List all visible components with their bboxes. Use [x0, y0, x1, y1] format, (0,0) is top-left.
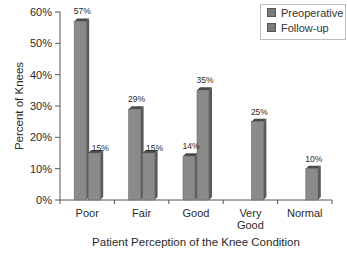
legend-item-follow-up: Follow-up — [261, 20, 345, 35]
x-tick-label: Poor — [76, 207, 100, 219]
bar-value-label: 25% — [251, 107, 268, 117]
bar — [251, 122, 263, 200]
bar — [74, 21, 86, 200]
bar-side — [318, 166, 321, 200]
x-tick-label: Good — [183, 207, 210, 219]
bar-side — [263, 119, 266, 200]
bar — [306, 169, 318, 200]
bar-value-label: 14% — [182, 141, 199, 151]
bar-value-label: 15% — [92, 143, 109, 153]
bar-value-label: 35% — [196, 75, 213, 85]
bar — [129, 109, 141, 200]
legend-item-preoperative: Preoperative — [261, 5, 345, 20]
x-tick-label: Good — [237, 219, 264, 231]
bar — [143, 153, 155, 200]
y-tick-label: 10% — [30, 163, 52, 175]
x-tick-label: Fair — [132, 207, 151, 219]
bar-value-label: 15% — [146, 143, 163, 153]
legend-swatch-icon — [267, 23, 276, 32]
y-tick-label: 20% — [30, 131, 52, 143]
bar-side — [100, 150, 103, 200]
y-tick-label: 60% — [30, 6, 52, 18]
bar — [183, 156, 195, 200]
y-tick-label: 50% — [30, 37, 52, 49]
x-tick-label: Normal — [287, 207, 322, 219]
y-tick-label: 40% — [30, 69, 52, 81]
x-tick-label: Very — [239, 207, 262, 219]
legend: Preoperative Follow-up — [260, 4, 346, 40]
y-tick-label: 30% — [30, 100, 52, 112]
bar-value-label: 57% — [74, 6, 91, 16]
bar-side — [209, 87, 212, 200]
legend-label: Follow-up — [281, 22, 329, 34]
x-axis-label: Patient Perception of the Knee Condition — [92, 236, 300, 248]
bar-value-label: 10% — [305, 154, 322, 164]
bar — [88, 153, 100, 200]
legend-label: Preoperative — [281, 7, 343, 19]
y-tick-label: 0% — [36, 194, 52, 206]
y-axis-label: Percent of Knees — [13, 62, 25, 150]
legend-swatch-icon — [267, 8, 276, 17]
bar-value-label: 29% — [128, 94, 145, 104]
bar-side — [155, 150, 158, 200]
